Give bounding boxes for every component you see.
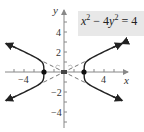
left-branch-lower-arrow xyxy=(6,96,16,100)
y-tick-neg4: −4 xyxy=(51,107,62,118)
hyperbola-plot: −4 4 4 2 −2 −4 x y xyxy=(0,0,144,132)
vertex-right xyxy=(81,69,86,74)
right-branch-lower-arrow xyxy=(112,96,122,100)
right-branch-upper-arrow xyxy=(112,44,122,48)
x-tick-4: 4 xyxy=(101,74,106,85)
y-tick-2: 2 xyxy=(56,47,61,58)
left-branch-upper-arrow xyxy=(6,44,16,48)
x-tick-neg4: −4 xyxy=(18,74,29,85)
center-marker xyxy=(61,70,67,74)
x-axis-label: x xyxy=(123,74,129,86)
y-tick-4: 4 xyxy=(56,27,61,38)
y-tick-neg2: −2 xyxy=(51,87,62,98)
y-axis-label: y xyxy=(52,4,58,16)
vertex-left xyxy=(41,69,46,74)
y-axis xyxy=(64,10,67,128)
